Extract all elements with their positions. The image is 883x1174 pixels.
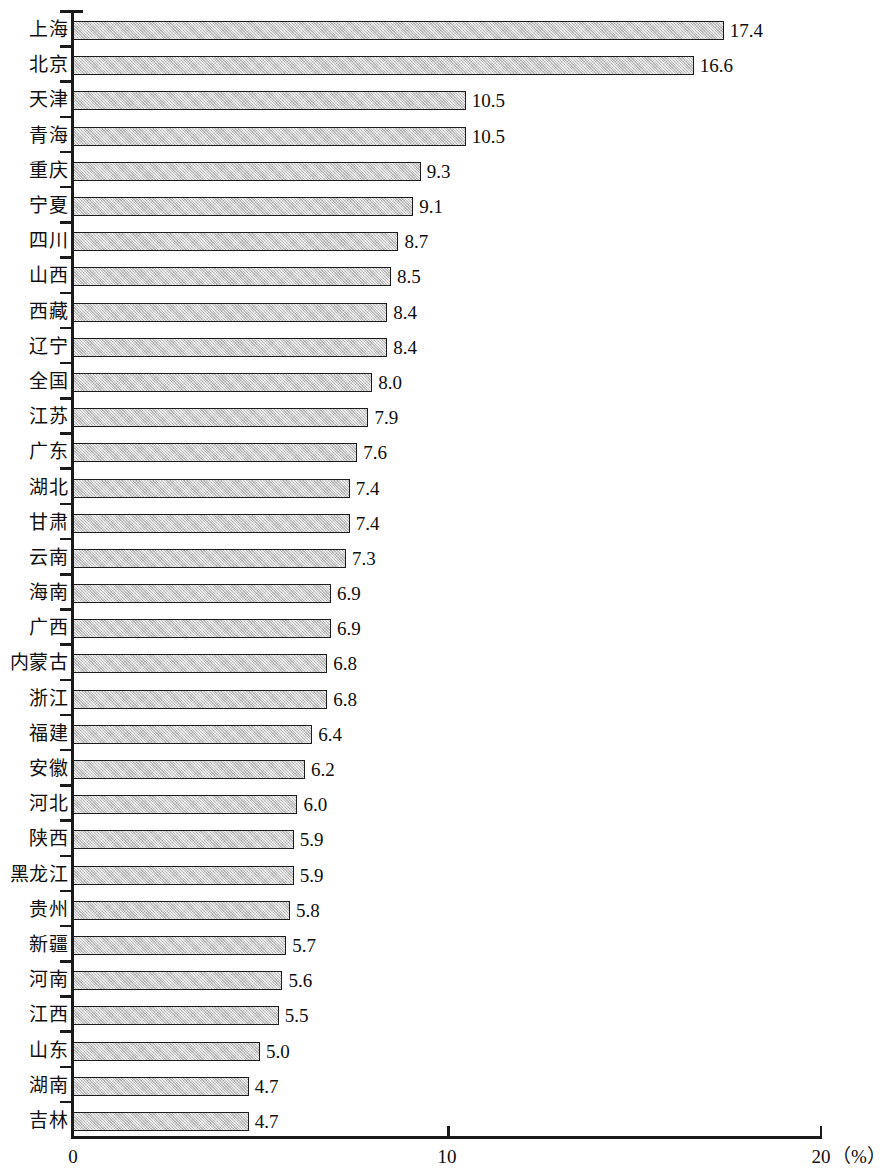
bar-value-label: 9.3 — [427, 162, 451, 181]
bar — [73, 373, 372, 392]
category-label: 内蒙古 — [0, 652, 68, 674]
bar-row: 辽宁8.4 — [0, 327, 883, 361]
x-axis-unit-label: （%） — [832, 1146, 883, 1168]
bar — [73, 1112, 249, 1131]
category-label: 河北 — [0, 793, 68, 815]
bar-row: 新疆5.7 — [0, 925, 883, 959]
bar — [73, 514, 350, 533]
bar-chart: 上海17.4北京16.6天津10.5青海10.5重庆9.3宁夏9.1四川8.7山… — [0, 0, 883, 1174]
category-label: 福建 — [0, 723, 68, 745]
bar — [73, 1006, 279, 1025]
bar-value-label: 8.5 — [397, 267, 421, 286]
bar — [73, 197, 413, 216]
bar-row: 陕西5.9 — [0, 819, 883, 853]
category-label: 重庆 — [0, 160, 68, 182]
bar-value-label: 6.0 — [303, 795, 327, 814]
category-label: 广东 — [0, 441, 68, 463]
bar-value-label: 6.9 — [337, 584, 361, 603]
bar-row: 湖南4.7 — [0, 1066, 883, 1100]
bar-row: 湖北7.4 — [0, 467, 883, 501]
bar-row: 云南7.3 — [0, 538, 883, 572]
category-label: 湖北 — [0, 477, 68, 499]
bar-value-label: 10.5 — [472, 91, 505, 110]
category-label: 青海 — [0, 125, 68, 147]
bar — [73, 619, 331, 638]
bar — [73, 303, 387, 322]
bar — [73, 760, 305, 779]
x-axis-tick — [447, 1126, 450, 1139]
bar-row: 河北6.0 — [0, 784, 883, 818]
bar-row: 西藏8.4 — [0, 292, 883, 326]
category-label: 河南 — [0, 969, 68, 991]
bar-row: 四川8.7 — [0, 221, 883, 255]
bar — [73, 725, 312, 744]
category-label: 安徽 — [0, 758, 68, 780]
bar-row: 江苏7.9 — [0, 397, 883, 431]
bar-value-label: 4.7 — [255, 1077, 279, 1096]
category-label: 四川 — [0, 230, 68, 252]
bar-row: 河南5.6 — [0, 960, 883, 994]
bar-value-label: 10.5 — [472, 127, 505, 146]
bar — [73, 654, 327, 673]
category-label: 广西 — [0, 617, 68, 639]
bar-row: 全国8.0 — [0, 362, 883, 396]
bar-row: 福建6.4 — [0, 714, 883, 748]
bar-value-label: 5.8 — [296, 901, 320, 920]
bar — [73, 338, 387, 357]
category-label: 浙江 — [0, 688, 68, 710]
bar-value-label: 16.6 — [700, 56, 733, 75]
x-axis-tick-label: 10 — [438, 1146, 457, 1168]
bar — [73, 127, 466, 146]
category-label: 甘肃 — [0, 512, 68, 534]
bar-row: 安徽6.2 — [0, 749, 883, 783]
bar-value-label: 7.6 — [363, 443, 387, 462]
bar-value-label: 5.6 — [288, 971, 312, 990]
bar-value-label: 5.0 — [266, 1042, 290, 1061]
category-label: 吉林 — [0, 1110, 68, 1132]
bar — [73, 549, 346, 568]
bar-row: 上海17.4 — [0, 10, 883, 44]
bar — [73, 901, 290, 920]
bar-value-label: 6.8 — [333, 654, 357, 673]
category-label: 山西 — [0, 265, 68, 287]
bar-value-label: 5.5 — [285, 1006, 309, 1025]
bar-value-label: 8.7 — [404, 232, 428, 251]
bar-value-label: 7.4 — [356, 514, 380, 533]
category-label: 贵州 — [0, 899, 68, 921]
bar-row: 甘肃7.4 — [0, 503, 883, 537]
bar-row: 广东7.6 — [0, 432, 883, 466]
category-label: 西藏 — [0, 301, 68, 323]
bar-row: 广西6.9 — [0, 608, 883, 642]
bar — [73, 443, 357, 462]
bar-row: 山西8.5 — [0, 256, 883, 290]
category-label: 天津 — [0, 89, 68, 111]
bar-row: 吉林4.7 — [0, 1101, 883, 1135]
bar-value-label: 5.7 — [292, 936, 316, 955]
bar — [73, 1042, 260, 1061]
bar-value-label: 8.4 — [393, 338, 417, 357]
category-label: 海南 — [0, 582, 68, 604]
category-label: 湖南 — [0, 1075, 68, 1097]
category-label: 宁夏 — [0, 195, 68, 217]
category-label: 云南 — [0, 547, 68, 569]
bar-value-label: 7.9 — [374, 408, 398, 427]
bar-value-label: 6.2 — [311, 760, 335, 779]
bar-row: 北京16.6 — [0, 45, 883, 79]
bar-row: 江西5.5 — [0, 995, 883, 1029]
category-label: 黑龙江 — [0, 864, 68, 886]
plot-area: 上海17.4北京16.6天津10.5青海10.5重庆9.3宁夏9.1四川8.7山… — [0, 0, 883, 1174]
category-label: 新疆 — [0, 934, 68, 956]
bar-value-label: 8.4 — [393, 303, 417, 322]
category-label: 北京 — [0, 54, 68, 76]
category-label: 全国 — [0, 371, 68, 393]
bar — [73, 584, 331, 603]
bar-value-label: 7.3 — [352, 549, 376, 568]
bar-row: 贵州5.8 — [0, 890, 883, 924]
category-label: 江西 — [0, 1004, 68, 1026]
bar-row: 浙江6.8 — [0, 679, 883, 713]
bar-value-label: 9.1 — [419, 197, 443, 216]
bar-row: 海南6.9 — [0, 573, 883, 607]
category-label: 江苏 — [0, 406, 68, 428]
bar — [73, 408, 368, 427]
category-label: 陕西 — [0, 828, 68, 850]
